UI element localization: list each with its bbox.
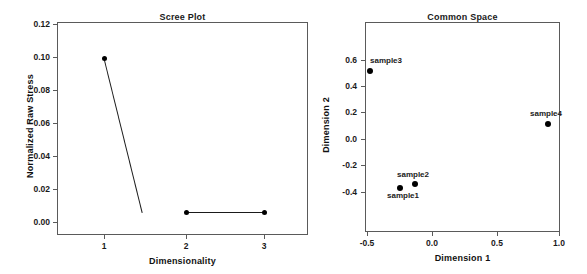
common-space-panel: Common Space -0.4 -0.2 0.0 0.2 0.4 0.6 -… bbox=[293, 0, 587, 274]
scree-line-segment-2-3 bbox=[186, 212, 264, 213]
common-point-label-sample2: sample2 bbox=[397, 170, 429, 179]
scree-ytick-0 bbox=[53, 222, 57, 223]
common-space-title: Common Space bbox=[365, 12, 560, 22]
common-xtick-3 bbox=[559, 232, 560, 236]
common-y-axis-title: Dimension 2 bbox=[321, 70, 331, 180]
common-ytick-3 bbox=[361, 112, 365, 113]
scree-xtick-1 bbox=[186, 235, 187, 239]
scree-x-axis-title: Dimensionality bbox=[57, 256, 308, 266]
scree-data-point-2 bbox=[184, 210, 189, 215]
common-data-point-sample2 bbox=[412, 181, 418, 187]
common-xtick-2 bbox=[497, 232, 498, 236]
scree-y-axis-title: Normalized Raw Stress bbox=[25, 41, 35, 211]
common-ytick-0 bbox=[361, 192, 365, 193]
common-x-axis-title: Dimension 1 bbox=[365, 253, 560, 263]
common-point-label-sample4: sample4 bbox=[530, 109, 562, 118]
scree-data-point-1 bbox=[102, 56, 107, 61]
scree-ytick-2 bbox=[53, 156, 57, 157]
common-ytick-1 bbox=[361, 165, 365, 166]
scree-ytick-4 bbox=[53, 90, 57, 91]
common-ytick-4 bbox=[361, 86, 365, 87]
scree-ytick-label-6: 0.12 bbox=[12, 19, 50, 29]
common-xtick-1 bbox=[432, 232, 433, 236]
scree-data-point-3 bbox=[262, 210, 267, 215]
scree-ytick-label-0: 0.00 bbox=[12, 217, 50, 227]
scree-xtick-label-0: 1 bbox=[84, 241, 124, 251]
scree-ytick-6 bbox=[53, 24, 57, 25]
scree-plot-panel: Scree Plot 0.00 0.02 0.04 0.06 0.08 0.10… bbox=[0, 0, 294, 274]
scree-plot-frame bbox=[57, 22, 308, 235]
scree-ytick-5 bbox=[53, 57, 57, 58]
scree-xtick-label-2: 3 bbox=[244, 241, 284, 251]
common-xtick-label-2: 0.5 bbox=[477, 238, 517, 248]
common-ytick-label-0: -0.4 bbox=[319, 187, 357, 197]
common-xtick-label-3: 1.0 bbox=[539, 238, 579, 248]
common-ytick-2 bbox=[361, 139, 365, 140]
scree-xtick-label-1: 2 bbox=[166, 241, 206, 251]
common-ytick-label-5: 0.6 bbox=[319, 55, 357, 65]
scree-ytick-3 bbox=[53, 123, 57, 124]
common-xtick-0 bbox=[367, 232, 368, 236]
common-xtick-label-0: -0.5 bbox=[347, 238, 387, 248]
scree-ytick-1 bbox=[53, 189, 57, 190]
common-ytick-5 bbox=[361, 60, 365, 61]
figure-container: Scree Plot 0.00 0.02 0.04 0.06 0.08 0.10… bbox=[0, 0, 587, 274]
common-point-label-sample3: sample3 bbox=[370, 56, 402, 65]
scree-xtick-0 bbox=[104, 235, 105, 239]
common-data-point-sample3 bbox=[367, 68, 373, 74]
scree-xtick-2 bbox=[264, 235, 265, 239]
common-point-label-sample1: sample1 bbox=[387, 191, 419, 200]
common-space-frame bbox=[365, 22, 560, 232]
common-xtick-label-1: 0.0 bbox=[412, 238, 452, 248]
scree-plot-title: Scree Plot bbox=[57, 12, 308, 22]
common-data-point-sample4 bbox=[545, 121, 551, 127]
